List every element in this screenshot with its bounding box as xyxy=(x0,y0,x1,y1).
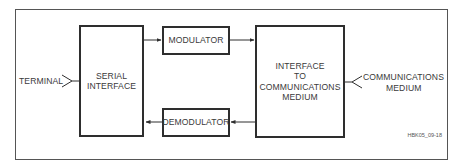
comm-interface-label-4: MEDIUM xyxy=(282,92,317,103)
serial-interface-label-1: SERIAL xyxy=(96,71,127,82)
modulator-label: MODULATOR xyxy=(168,35,223,46)
demodulator-label: DEMODULATOR xyxy=(162,117,229,128)
comm-interface-label-1: INTERFACE xyxy=(275,61,324,72)
medium-label-1: COMMUNICATIONS xyxy=(363,72,444,83)
modulator-block: MODULATOR xyxy=(162,26,230,55)
figure-id: HBK05_09-18 xyxy=(407,132,442,138)
serial-interface-block: SERIAL INTERFACE xyxy=(79,25,144,137)
serial-interface-label-2: INTERFACE xyxy=(87,81,136,92)
medium-label-2: MEDIUM xyxy=(386,83,421,94)
comm-interface-block: INTERFACE TO COMMUNICATIONS MEDIUM xyxy=(255,25,345,138)
medium-connector-icon xyxy=(344,76,362,88)
comm-interface-label-2: TO xyxy=(294,71,306,82)
terminal-label: TERMINAL xyxy=(19,76,63,87)
demodulator-block: DEMODULATOR xyxy=(162,108,230,137)
comm-interface-label-3: COMMUNICATIONS xyxy=(260,82,341,93)
terminal-connector-icon xyxy=(62,75,80,87)
